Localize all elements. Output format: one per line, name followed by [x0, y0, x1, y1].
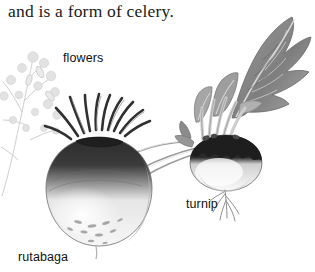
label-rutabaga: rutabaga: [18, 250, 68, 264]
botanical-figure: and is a form of celery. flowers turnip …: [0, 0, 315, 272]
illustration-canvas: [0, 0, 315, 272]
label-turnip: turnip: [186, 197, 218, 211]
label-flowers: flowers: [63, 51, 103, 65]
turnip-greens-illustration: [194, 17, 311, 140]
rutabaga-illustration: [45, 94, 152, 259]
page-caption: and is a form of celery.: [8, 0, 288, 22]
